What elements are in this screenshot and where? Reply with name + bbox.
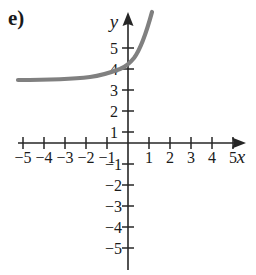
y-tick-label: 1	[110, 124, 118, 141]
x-tick-label: 1	[145, 149, 153, 166]
x-tick-label: 3	[187, 149, 195, 166]
y-axis-arrowhead	[123, 12, 134, 26]
x-tick-label: 4	[208, 149, 216, 166]
y-tick-label: −1	[105, 156, 122, 173]
x-tick-label: 2	[166, 149, 174, 166]
x-tick-label: −2	[77, 149, 94, 166]
y-axis-label: y	[108, 11, 119, 32]
y-tick-label: −3	[105, 198, 122, 215]
figure-panel: e)	[0, 0, 256, 275]
y-tick-label: 2	[110, 103, 118, 120]
y-tick-label: −2	[105, 177, 122, 194]
coordinate-plot: −5 −4 −3 −2 −1 1 2 3 4 5 5 4 3 2 1 −1 −2…	[0, 0, 256, 275]
x-tick-label: −5	[14, 149, 31, 166]
y-tick-label: 3	[110, 82, 118, 99]
y-tick-label: 5	[110, 40, 118, 57]
y-tick-label: −5	[105, 240, 122, 257]
x-axis-label: x	[236, 146, 246, 167]
x-tick-label: −3	[56, 149, 73, 166]
y-tick-label: −4	[105, 219, 122, 236]
x-tick-label: −4	[35, 149, 52, 166]
